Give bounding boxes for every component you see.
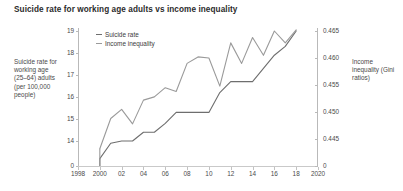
chart-container: Suicide rate for working age adults vs i… — [0, 0, 403, 191]
x-tick-label: 1998 — [71, 170, 85, 177]
series-line-suicide-rate — [100, 31, 296, 159]
x-tick-label: 04 — [140, 170, 147, 177]
chart-title: Suicide rate for working age adults vs i… — [14, 5, 237, 14]
x-tick-label: 02 — [118, 170, 125, 177]
x-tick-label: 16 — [271, 170, 278, 177]
right-axis-caption: Income inequality (Gini ratios) — [352, 58, 400, 83]
y-tick-label-right: 0.460 — [323, 54, 339, 61]
y-tick-right — [315, 58, 318, 59]
x-tick-label: 06 — [162, 170, 169, 177]
y-tick-label-right: 0.445 — [323, 135, 339, 142]
y-tick-label-left: 0 — [70, 162, 74, 169]
x-tick-label: 12 — [227, 170, 234, 177]
series-layer — [78, 28, 318, 167]
y-tick-right — [315, 31, 318, 32]
x-tick-label: 08 — [184, 170, 191, 177]
y-tick-label-left: 17 — [67, 71, 74, 78]
x-tick-label: 14 — [249, 170, 256, 177]
x-tick-label: 2020 — [311, 170, 325, 177]
x-tick-label: 2000 — [93, 170, 107, 177]
y-tick-right — [315, 139, 318, 140]
y-tick-label-right: 0 — [323, 162, 327, 169]
x-tick-label: 18 — [293, 170, 300, 177]
y-tick-left — [76, 141, 79, 142]
y-tick-label-left: 19 — [67, 27, 74, 34]
left-axis-caption: Suicide rate for working age (25–64) adu… — [14, 58, 62, 99]
y-tick-left — [76, 53, 79, 54]
y-tick-label-right: 0.450 — [323, 108, 339, 115]
y-tick-left — [76, 119, 79, 120]
plot-area: 014151617181900.4450.4500.4550.4600.4651… — [78, 28, 318, 167]
y-tick-left — [76, 75, 79, 76]
y-tick-label-left: 14 — [67, 137, 74, 144]
y-tick-left — [76, 97, 79, 98]
y-tick-label-left: 15 — [67, 115, 74, 122]
x-tick-label: 10 — [205, 170, 212, 177]
y-tick-label-left: 16 — [67, 93, 74, 100]
y-tick-right — [315, 85, 318, 86]
y-tick-label-right: 0.465 — [323, 27, 339, 34]
y-tick-label-left: 18 — [67, 49, 74, 56]
y-tick-left — [76, 31, 79, 32]
y-tick-label-right: 0.455 — [323, 81, 339, 88]
y-tick-right — [315, 112, 318, 113]
series-line-income-inequality — [100, 30, 296, 149]
